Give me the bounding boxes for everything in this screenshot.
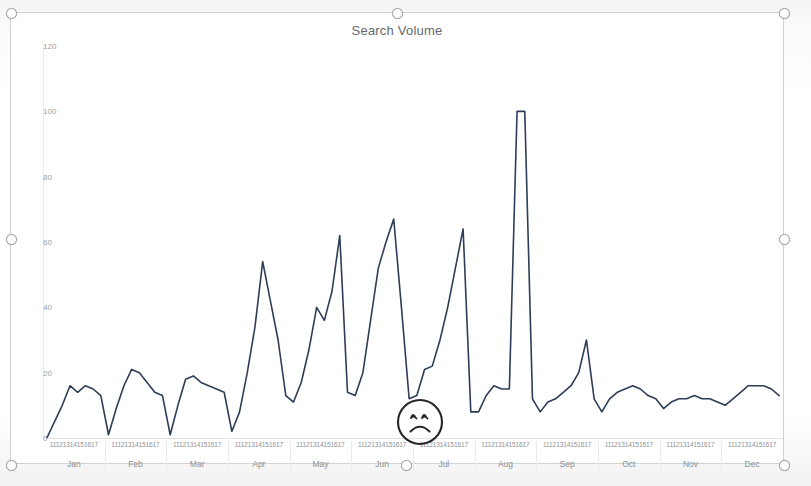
- x-tick-labels-may: 11121314151617: [292, 441, 350, 448]
- month-label-nov: Nov: [683, 459, 698, 469]
- resize-handle-middle-left[interactable]: [6, 234, 17, 245]
- resize-handle-top-left[interactable]: [6, 8, 17, 19]
- sad-eye-right-icon: [422, 415, 428, 418]
- chart-title: Search Volume: [11, 23, 783, 38]
- month-label-oct: Oct: [622, 459, 635, 469]
- x-tick-labels-jan: 11121314151617: [45, 441, 103, 448]
- x-axis-month-labels: JanFebMarAprMayJunJulAugSepOctNovDec: [43, 459, 783, 473]
- month-label-apr: Apr: [252, 459, 265, 469]
- month-label-jun: Jun: [375, 459, 389, 469]
- plot-area[interactable]: [43, 46, 783, 438]
- resize-handle-bottom-left[interactable]: [6, 460, 17, 471]
- x-tick-labels-nov: 11121314151617: [662, 441, 720, 448]
- x-tick-labels-feb: 11121314151617: [107, 441, 165, 448]
- chart-visual-container[interactable]: Search Volume 020406080100120 1112131415…: [10, 12, 784, 464]
- month-label-feb: Feb: [128, 459, 143, 469]
- x-tick-labels-dec: 11121314151617: [723, 441, 781, 448]
- resize-handle-bottom-right[interactable]: [779, 460, 790, 471]
- month-label-may: May: [312, 459, 328, 469]
- month-label-mar: Mar: [190, 459, 205, 469]
- x-tick-labels-mar: 11121314151617: [168, 441, 226, 448]
- month-label-dec: Dec: [745, 459, 760, 469]
- month-label-aug: Aug: [498, 459, 513, 469]
- x-tick-labels-aug: 11121314151617: [477, 441, 535, 448]
- annotation-circle-icon: [398, 400, 442, 444]
- frown-mouth-icon: [411, 427, 430, 432]
- line-series-svg: [43, 46, 783, 438]
- x-tick-labels-oct: 11121314151617: [600, 441, 658, 448]
- resize-handle-top-center[interactable]: [392, 8, 403, 19]
- sad-eye-left-icon: [411, 415, 417, 418]
- series-line-search-volume: [47, 111, 779, 438]
- month-label-jul: Jul: [438, 459, 449, 469]
- resize-handle-top-right[interactable]: [779, 8, 790, 19]
- month-label-sep: Sep: [560, 459, 575, 469]
- sad-face-annotation: [395, 397, 445, 447]
- month-label-jan: Jan: [67, 459, 81, 469]
- resize-handle-middle-right[interactable]: [779, 234, 790, 245]
- x-tick-labels-apr: 11121314151617: [230, 441, 288, 448]
- x-tick-labels-sep: 11121314151617: [538, 441, 596, 448]
- screenshot-stage: Search Volume 020406080100120 1112131415…: [0, 0, 811, 486]
- resize-handle-bottom-center[interactable]: [401, 460, 412, 471]
